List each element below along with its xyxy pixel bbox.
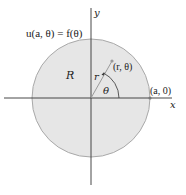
point-a-0: [148, 96, 151, 99]
point-label: (r, θ): [113, 61, 132, 73]
x-axis-label: x: [170, 99, 176, 110]
polar-diagram: u(a, θ) = f(θ) R r θ (r, θ) (a, 0) x y: [0, 0, 186, 195]
region-label: R: [65, 69, 74, 82]
y-axis-label: y: [93, 7, 100, 18]
angle-label: θ: [103, 85, 109, 96]
boundary-condition-label: u(a, θ) = f(θ): [26, 27, 83, 40]
boundary-point-label: (a, 0): [150, 85, 171, 97]
